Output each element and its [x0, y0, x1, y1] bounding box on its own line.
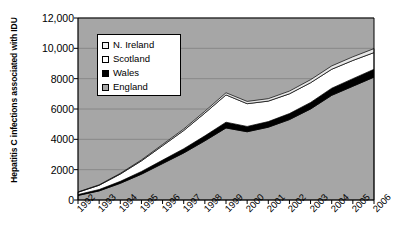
- legend-item-scotland: Scotland: [102, 52, 177, 66]
- legend-swatch-n-ireland: [102, 42, 109, 49]
- legend-label-n-ireland: N. Ireland: [113, 40, 154, 50]
- x-tick-label: 1998: [202, 192, 224, 214]
- x-tick-label: 2004: [329, 192, 351, 214]
- x-tick-label: 2001: [265, 192, 287, 214]
- legend-item-wales: Wales: [102, 66, 177, 80]
- legend-item-n-ireland: N. Ireland: [102, 38, 177, 52]
- x-tick-label: 2003: [308, 192, 330, 214]
- legend-label-wales: Wales: [113, 68, 139, 78]
- x-tick-label: 2000: [244, 192, 266, 214]
- legend-swatch-england: [102, 84, 109, 91]
- chart-legend: N. Ireland Scotland Wales England: [97, 34, 181, 96]
- x-tick-label: 1996: [160, 192, 182, 214]
- x-tick-label: 1995: [138, 192, 160, 214]
- x-tick-label: 1993: [96, 192, 118, 214]
- legend-label-scotland: Scotland: [113, 54, 150, 64]
- legend-swatch-scotland: [102, 56, 109, 63]
- legend-item-england: England: [102, 80, 177, 94]
- x-tick-label: 1994: [117, 192, 139, 214]
- x-tick-label: 1997: [181, 192, 203, 214]
- x-tick-label: 2006: [371, 192, 393, 214]
- x-tick-label: 2005: [350, 192, 372, 214]
- x-tick-label: 1999: [223, 192, 245, 214]
- x-tick-label: 2002: [286, 192, 308, 214]
- legend-swatch-wales: [102, 70, 109, 77]
- legend-label-england: England: [113, 82, 148, 92]
- x-tick-label: 1992: [75, 192, 97, 214]
